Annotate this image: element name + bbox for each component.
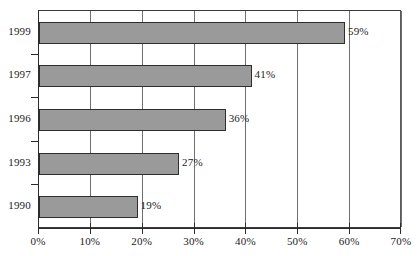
y-tick xyxy=(31,54,38,55)
plot-area xyxy=(38,10,401,228)
x-tick-label: 0% xyxy=(30,235,45,247)
gridline-60 xyxy=(349,11,350,227)
x-tick-label: 10% xyxy=(79,235,100,247)
bar-chart: 0%10%20%30%40%50%60%70% 1999199719961993… xyxy=(0,0,420,256)
x-tick xyxy=(245,223,246,234)
y-category-label: 1999 xyxy=(0,25,31,37)
x-tick xyxy=(297,223,298,234)
bar xyxy=(39,109,226,131)
bar xyxy=(39,65,252,87)
x-tick-label: 70% xyxy=(391,235,412,247)
y-category-label: 1997 xyxy=(0,68,31,80)
bar xyxy=(39,22,345,44)
bar-value-label: 19% xyxy=(141,199,162,211)
x-tick xyxy=(142,223,143,234)
x-tick xyxy=(400,223,401,234)
y-tick xyxy=(31,141,38,142)
bar-value-label: 41% xyxy=(255,68,276,80)
y-tick xyxy=(31,184,38,185)
x-tick-label: 30% xyxy=(183,235,204,247)
x-tick xyxy=(194,223,195,234)
x-tick-label: 20% xyxy=(131,235,152,247)
y-category-label: 1993 xyxy=(0,156,31,168)
y-axis-line xyxy=(38,10,39,229)
bar xyxy=(39,153,179,175)
x-tick xyxy=(90,223,91,234)
x-axis-line xyxy=(38,228,401,229)
bar-value-label: 59% xyxy=(348,25,369,37)
x-tick-label: 60% xyxy=(339,235,360,247)
x-tick-label: 50% xyxy=(287,235,308,247)
x-tick xyxy=(349,223,350,234)
x-tick xyxy=(38,223,39,234)
y-category-label: 1990 xyxy=(0,199,31,211)
y-tick xyxy=(31,97,38,98)
bar-value-label: 36% xyxy=(229,112,250,124)
bar xyxy=(39,196,138,218)
gridline-70 xyxy=(401,11,402,227)
y-category-label: 1996 xyxy=(0,112,31,124)
bar-value-label: 27% xyxy=(182,156,203,168)
x-tick-label: 40% xyxy=(235,235,256,247)
